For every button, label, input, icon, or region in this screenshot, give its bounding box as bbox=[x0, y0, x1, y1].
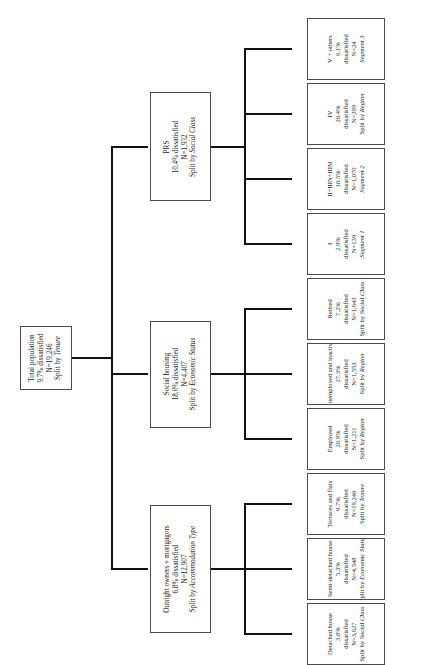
connector-outright-owners-to-semi-detached bbox=[244, 568, 292, 570]
node-count: N=12,907 bbox=[181, 525, 190, 612]
node-unemployed-and-inactive[interactable]: Unemployed and inactive 27.3% dissatisfi… bbox=[307, 343, 385, 405]
node-label: Retired bbox=[326, 281, 334, 336]
node-count: N=299 bbox=[350, 93, 358, 134]
connector-outright-owners-stem bbox=[211, 568, 245, 570]
node-count: N=4,548 bbox=[350, 538, 358, 600]
node-split: Split by Tenure bbox=[55, 333, 64, 382]
node-split-variable: Segment 2 bbox=[358, 165, 365, 192]
node-class-i[interactable]: I 2.9% dissatisfied N=139 Segment 1 bbox=[307, 213, 385, 275]
connector-trunk-to-prs bbox=[111, 146, 148, 148]
node-label: Terraces and flats bbox=[326, 481, 334, 527]
node-semi-detached-house[interactable]: Semi-detached house 5.3% dissatisfied N=… bbox=[307, 538, 385, 600]
node-count: N=24 bbox=[350, 34, 358, 64]
node-rate: 2.9% bbox=[334, 229, 342, 259]
node-employed-text: Employed 20.9% dissatisfied N=1,211 Spli… bbox=[326, 418, 366, 459]
node-employed[interactable]: Employed 20.9% dissatisfied N=1,211 Spli… bbox=[307, 408, 385, 470]
node-social-housing-text: Social housing 18.0% dissatisfied N=4,40… bbox=[163, 338, 198, 410]
node-detached-house[interactable]: Detached house 3.8% dissatisfied N=3,627… bbox=[307, 603, 385, 665]
node-label: Outright owners + mortgagors bbox=[163, 525, 172, 612]
node-split: Split by Region bbox=[358, 93, 366, 134]
node-rate: 27.3% bbox=[334, 343, 342, 405]
node-social-housing[interactable]: Social housing 18.0% dissatisfied N=4,40… bbox=[150, 321, 211, 428]
node-split: Segment 2 bbox=[358, 161, 366, 197]
connector-outright-owners-to-terraces bbox=[244, 503, 292, 505]
node-retired[interactable]: Retired 7.2% dissatisfied N=1,643 Split … bbox=[307, 278, 385, 340]
connector-trunk-vertical bbox=[111, 147, 113, 570]
connector-prs-bus bbox=[244, 49, 246, 244]
connector-root-stem bbox=[72, 357, 112, 359]
node-rate-word: dissatisfied bbox=[342, 418, 350, 459]
node-outright-owners-text: Outright owners + mortgagors 6.8% dissat… bbox=[163, 525, 198, 612]
node-rate: 6.8% dissatisfied bbox=[172, 525, 181, 612]
node-split: Split by Social Class bbox=[189, 116, 198, 176]
connector-social-housing-stem bbox=[211, 373, 245, 375]
node-split-variable: Tenure bbox=[358, 484, 365, 502]
node-split-variable: Segment 1 bbox=[358, 230, 365, 257]
node-split: Split by Accommodation Type bbox=[189, 525, 198, 612]
node-terraces-text: Terraces and flats 9.7% dissatisfied N=1… bbox=[326, 481, 366, 527]
node-total-population-text: Total population 9.7% dissatisfied N=19,… bbox=[28, 333, 63, 382]
node-ii-iiin-iiim-text: II+IIIN+IIIM 10.3% dissatisfied N=1,070 … bbox=[326, 161, 366, 197]
node-prs[interactable]: PRS 10.4% dissatisfied N=1,932 Split by … bbox=[150, 92, 211, 201]
node-count: N=1,932 bbox=[181, 116, 190, 176]
node-prs-text: PRS 10.4% dissatisfied N=1,932 Split by … bbox=[163, 116, 198, 176]
connector-social-housing-to-unemployed bbox=[244, 373, 292, 375]
node-label: IV bbox=[326, 93, 334, 134]
node-split: Segment 1 bbox=[358, 229, 366, 259]
node-rate: 6.1% bbox=[334, 34, 342, 64]
node-split-variable: Social Class bbox=[358, 281, 365, 314]
node-split: Split by Social Class bbox=[358, 606, 366, 661]
node-ii-iiin-iiim[interactable]: II+IIIN+IIIM 10.3% dissatisfied N=1,070 … bbox=[307, 148, 385, 210]
node-rate-word: dissatisfied bbox=[342, 606, 350, 661]
node-label: Detached house bbox=[326, 606, 334, 661]
node-iv-text: IV 20.4% dissatisfied N=299 Split by Reg… bbox=[326, 93, 366, 134]
node-count: N=1,553 bbox=[350, 343, 358, 405]
node-label: Employed bbox=[326, 418, 334, 459]
node-rate: 7.2% bbox=[334, 281, 342, 336]
node-split-variable: Accommodation Type bbox=[189, 526, 197, 588]
connector-social-housing-to-employed bbox=[244, 438, 292, 440]
node-count: N=3,627 bbox=[350, 606, 358, 661]
connector-prs-to-v-plus-others bbox=[244, 48, 292, 50]
node-split: Split by Social Class bbox=[358, 281, 366, 336]
node-v-plus-others-text: V + others 6.1% dissatisfied N=24 Segmen… bbox=[326, 34, 366, 64]
node-rate: 3.8% bbox=[334, 606, 342, 661]
node-rate: 10.4% dissatisfied bbox=[172, 116, 181, 176]
node-count: N=1,211 bbox=[350, 418, 358, 459]
node-split: Split by Economic Status bbox=[358, 538, 366, 600]
node-rate: 20.4% bbox=[334, 93, 342, 134]
node-label: I bbox=[326, 229, 334, 259]
connector-trunk-to-outright-owners bbox=[111, 568, 148, 570]
node-class-i-text: I 2.9% dissatisfied N=139 Segment 1 bbox=[326, 229, 366, 259]
node-count: N=1,070 bbox=[350, 161, 358, 197]
node-rate-word: dissatisfied bbox=[342, 229, 350, 259]
connector-prs-to-ii-iiin-iiim bbox=[244, 178, 292, 180]
node-outright-owners-mortgagors[interactable]: Outright owners + mortgagors 6.8% dissat… bbox=[150, 505, 211, 633]
node-rate: 9.7% dissatisfied bbox=[37, 333, 46, 382]
node-rate: 20.9% bbox=[334, 418, 342, 459]
node-iv[interactable]: IV 20.4% dissatisfied N=299 Split by Reg… bbox=[307, 83, 385, 145]
connector-social-housing-to-retired bbox=[244, 308, 292, 310]
node-total-population[interactable]: Total population 9.7% dissatisfied N=19,… bbox=[20, 326, 72, 390]
connector-prs-to-class-i bbox=[244, 243, 292, 245]
node-rate-word: dissatisfied bbox=[342, 481, 350, 527]
node-terraces-and-flats[interactable]: Terraces and flats 9.7% dissatisfied N=1… bbox=[307, 473, 385, 535]
node-split: Split by Region bbox=[358, 343, 366, 405]
node-label: Total population bbox=[28, 333, 37, 382]
node-split-variable: Tenure bbox=[55, 336, 63, 355]
node-label: V + others bbox=[326, 34, 334, 64]
node-split-variable: Social Class bbox=[358, 606, 365, 639]
node-split-variable: Region bbox=[358, 353, 365, 372]
node-v-plus-others[interactable]: V + others 6.1% dissatisfied N=24 Segmen… bbox=[307, 18, 385, 80]
node-label: Unemployed and inactive bbox=[326, 343, 334, 405]
node-split-variable: Economic Status bbox=[189, 338, 197, 386]
node-rate-word: dissatisfied bbox=[342, 34, 350, 64]
node-split-variable: Economic Status bbox=[358, 538, 365, 580]
node-split-variable: Region bbox=[358, 93, 365, 112]
node-split: Split by Economic Status bbox=[189, 338, 198, 410]
node-rate: 10.3% bbox=[334, 161, 342, 197]
node-split-variable: Segment 3 bbox=[358, 35, 365, 62]
node-rate-word: dissatisfied bbox=[342, 161, 350, 197]
node-label: Semi-detached house bbox=[326, 538, 334, 600]
